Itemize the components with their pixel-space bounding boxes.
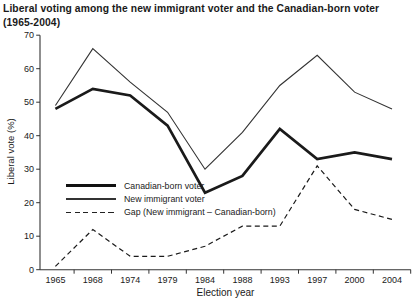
y-tick-label: 60 (24, 64, 34, 74)
legend-label-new-immigrant: New immigrant voter (124, 194, 205, 204)
legend-item-new-immigrant: New immigrant voter (66, 192, 276, 205)
x-tick-label: 1974 (120, 275, 140, 285)
y-tick-label: 40 (24, 131, 34, 141)
legend: Canadian-born voter New immigrant voter … (66, 179, 276, 219)
series-line-canadian-born-voter (55, 89, 392, 193)
legend-item-canadian-born: Canadian-born voter (66, 179, 276, 192)
legend-label-gap: Gap (New immigrant – Canadian-born) (124, 207, 276, 217)
legend-label-canadian-born: Canadian-born voter (124, 181, 204, 191)
x-tick-label: 1997 (307, 275, 327, 285)
y-axis-title: Liberal vote (%) (5, 47, 16, 257)
x-tick-label: 1965 (45, 275, 65, 285)
y-tick-label: 30 (24, 164, 34, 174)
legend-item-gap: Gap (New immigrant – Canadian-born) (66, 206, 276, 219)
x-tick-label: 2000 (345, 275, 365, 285)
x-tick-label: 1993 (270, 275, 290, 285)
x-axis-title: Election year (40, 287, 411, 298)
y-tick-label: 10 (24, 231, 34, 241)
x-tick-label: 1984 (195, 275, 215, 285)
y-tick-label: 70 (24, 30, 34, 40)
y-tick-label: 50 (24, 97, 34, 107)
chart-page: Liberal voting among the new immigrant v… (0, 0, 414, 303)
y-tick-label: 0 (29, 265, 34, 275)
x-tick-label: 1988 (232, 275, 252, 285)
x-tick-label: 1979 (158, 275, 178, 285)
dashed-line-sample-icon (66, 212, 116, 214)
x-tick-label: 1968 (83, 275, 103, 285)
thin-solid-line-sample-icon (66, 198, 116, 199)
chart-svg: 0102030405060701965196819741979198419881… (0, 0, 414, 303)
thick-solid-line-sample-icon (66, 184, 116, 187)
series-line-new-immigrant-voter (55, 49, 392, 170)
y-tick-label: 20 (24, 198, 34, 208)
x-tick-label: 2004 (382, 275, 402, 285)
